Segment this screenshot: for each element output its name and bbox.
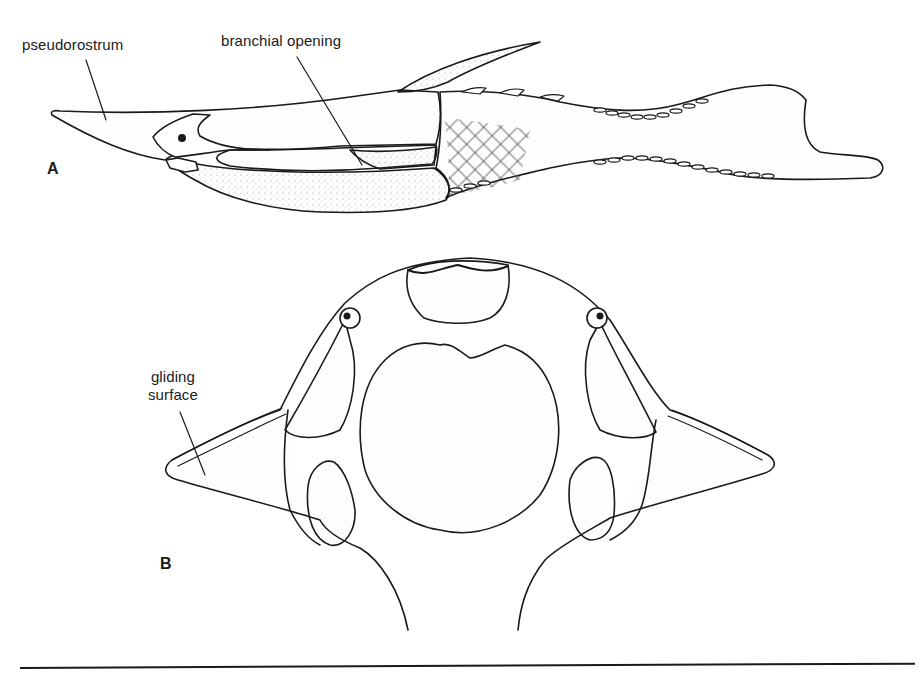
right-lateral-plate [569, 457, 614, 540]
fish-frontal-view [166, 258, 775, 630]
eye [178, 134, 186, 142]
right-eye [597, 313, 604, 320]
gliding-surface-label-line2: surface [148, 386, 198, 404]
branchial-opening-label: branchial opening [221, 32, 341, 49]
left-eye [344, 313, 351, 320]
gliding-surface-label-line1: gliding [148, 368, 198, 386]
right-orbit [587, 308, 607, 328]
figure: pseudorostrum branchial opening A glidin… [0, 0, 920, 674]
pseudorostrum-label: pseudorostrum [22, 36, 123, 53]
ventral-disc [360, 343, 559, 533]
pseudorostrum-leader [86, 60, 106, 120]
panel-letter-a: A [47, 160, 59, 178]
dorsal-fin [398, 42, 540, 92]
gliding-surface-label: gliding surface [148, 368, 198, 404]
left-orbit [340, 308, 360, 328]
oral-plates [166, 158, 198, 172]
fish-lateral-view [51, 42, 882, 213]
figure-illustration [0, 0, 920, 674]
panel-letter-b: B [160, 555, 172, 573]
